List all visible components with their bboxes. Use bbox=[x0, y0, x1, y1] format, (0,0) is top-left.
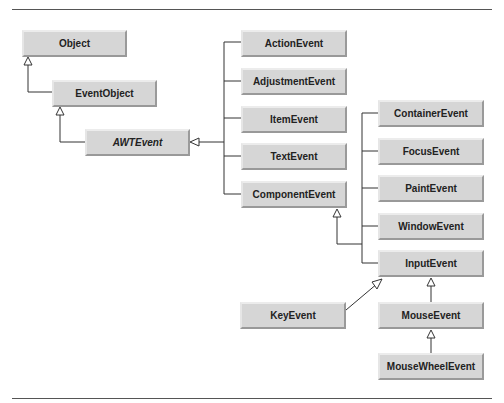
class-label: WindowEvent bbox=[398, 221, 463, 232]
class-containerevent: ContainerEvent bbox=[378, 100, 484, 127]
class-focusevent: FocusEvent bbox=[378, 138, 484, 165]
class-itemevent: ItemEvent bbox=[241, 106, 347, 133]
class-label: PaintEvent bbox=[405, 183, 457, 194]
class-label: Object bbox=[59, 38, 90, 49]
class-paintevent: PaintEvent bbox=[378, 175, 484, 202]
class-label: EventObject bbox=[75, 88, 133, 99]
class-awtevent: AWTEvent bbox=[85, 129, 190, 156]
class-eventobject: EventObject bbox=[52, 80, 157, 107]
class-label: ComponentEvent bbox=[253, 189, 336, 200]
class-label: ActionEvent bbox=[265, 38, 323, 49]
class-inputevent: InputEvent bbox=[378, 250, 484, 277]
class-actionevent: ActionEvent bbox=[241, 30, 347, 57]
class-label: FocusEvent bbox=[403, 146, 460, 157]
class-label: AWTEvent bbox=[113, 137, 162, 148]
class-label: KeyEvent bbox=[270, 310, 316, 321]
class-componentevent: ComponentEvent bbox=[241, 181, 347, 208]
class-label: AdjustmentEvent bbox=[253, 76, 335, 87]
class-adjustmentevent: AdjustmentEvent bbox=[241, 68, 347, 95]
class-label: ContainerEvent bbox=[394, 108, 468, 119]
class-keyevent: KeyEvent bbox=[240, 302, 346, 329]
class-textevent: TextEvent bbox=[241, 143, 347, 170]
class-mousewheelevent: MouseWheelEvent bbox=[378, 353, 484, 380]
class-label: TextEvent bbox=[270, 151, 317, 162]
class-label: InputEvent bbox=[405, 258, 457, 269]
class-mouseevent: MouseEvent bbox=[378, 302, 484, 329]
class-object: Object bbox=[22, 30, 127, 57]
class-label: ItemEvent bbox=[270, 114, 318, 125]
class-label: MouseEvent bbox=[402, 310, 461, 321]
class-label: MouseWheelEvent bbox=[387, 361, 475, 372]
class-windowevent: WindowEvent bbox=[378, 213, 484, 240]
